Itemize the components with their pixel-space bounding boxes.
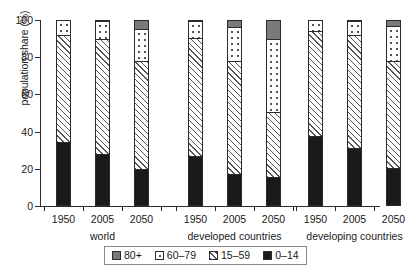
y-tick-mark xyxy=(35,57,40,58)
bar-segment-0-14[interactable] xyxy=(134,169,149,206)
y-tick-mark xyxy=(35,206,40,207)
bar-segment-0-14[interactable] xyxy=(266,177,281,206)
stacked-bar[interactable] xyxy=(134,20,149,206)
bar-segment-80+[interactable] xyxy=(95,20,110,21)
x-tick-mark xyxy=(215,206,216,211)
bar-segment-60-79[interactable] xyxy=(188,21,203,38)
bar-segment-80+[interactable] xyxy=(347,20,362,21)
group-label: developing countries xyxy=(275,231,410,242)
bar-segment-80+[interactable] xyxy=(266,20,281,39)
bar-segment-0-14[interactable] xyxy=(188,156,203,206)
legend-label: 80+ xyxy=(124,250,142,261)
x-tick-label: 2005 xyxy=(335,214,375,225)
bar-segment-0-14[interactable] xyxy=(308,136,323,206)
x-tick-label: 2050 xyxy=(254,214,294,225)
bar-segment-60-79[interactable] xyxy=(95,21,110,39)
chart-legend: 80+60–7915–590–14 xyxy=(104,246,307,265)
stacked-bar[interactable] xyxy=(347,20,362,206)
bar-segment-15-59[interactable] xyxy=(347,35,362,148)
legend-item[interactable]: 80+ xyxy=(112,250,142,261)
legend-item[interactable]: 15–59 xyxy=(209,250,250,261)
legend-swatch-icon xyxy=(209,251,218,260)
bar-segment-15-59[interactable] xyxy=(188,38,203,156)
bar-segment-80+[interactable] xyxy=(134,20,149,29)
bar-segment-80+[interactable] xyxy=(227,20,242,27)
bar-segment-15-59[interactable] xyxy=(95,39,110,154)
x-tick-mark xyxy=(296,206,297,211)
bar-segment-0-14[interactable] xyxy=(56,142,71,206)
y-tick-label: 20 xyxy=(0,164,33,175)
bar-segment-60-79[interactable] xyxy=(227,27,242,61)
x-tick-mark xyxy=(254,206,255,211)
bar-segment-0-14[interactable] xyxy=(347,148,362,206)
stacked-bar[interactable] xyxy=(188,20,203,206)
bar-segment-0-14[interactable] xyxy=(386,168,401,206)
y-tick-label: 0 xyxy=(0,201,33,212)
bar-segment-80+[interactable] xyxy=(188,20,203,21)
stacked-bar[interactable] xyxy=(308,20,323,206)
bar-segment-0-14[interactable] xyxy=(95,154,110,206)
x-tick-label: 1950 xyxy=(44,214,84,225)
bar-segment-60-79[interactable] xyxy=(56,20,71,35)
bar-segment-15-59[interactable] xyxy=(134,61,149,169)
legend-item[interactable]: 60–79 xyxy=(155,250,196,261)
stacked-bar[interactable] xyxy=(56,20,71,206)
x-tick-label: 2050 xyxy=(374,214,410,225)
y-axis-line xyxy=(40,20,41,207)
x-tick-mark xyxy=(374,206,375,211)
bar-segment-60-79[interactable] xyxy=(134,29,149,61)
y-tick-mark xyxy=(35,132,40,133)
x-tick-mark xyxy=(176,206,177,211)
legend-label: 60–79 xyxy=(167,250,196,261)
y-tick-label: 100 xyxy=(0,15,33,26)
bar-segment-60-79[interactable] xyxy=(386,26,401,61)
x-tick-mark xyxy=(335,206,336,211)
x-axis-line xyxy=(40,206,380,207)
plot-area: 020406080100 xyxy=(40,20,380,207)
bar-segment-15-59[interactable] xyxy=(308,31,323,136)
x-tick-mark xyxy=(44,206,45,211)
bar-segment-15-59[interactable] xyxy=(56,35,71,142)
x-tick-label: 2005 xyxy=(83,214,123,225)
y-tick-label: 60 xyxy=(0,89,33,100)
bar-segment-15-59[interactable] xyxy=(266,112,281,177)
stacked-bar[interactable] xyxy=(95,20,110,206)
bar-segment-0-14[interactable] xyxy=(227,174,242,206)
legend-label: 15–59 xyxy=(221,250,250,261)
x-tick-mark xyxy=(161,206,162,211)
y-tick-mark xyxy=(35,94,40,95)
legend-label: 0–14 xyxy=(275,250,298,261)
bar-segment-15-59[interactable] xyxy=(386,61,401,168)
bar-segment-15-59[interactable] xyxy=(227,61,242,174)
legend-swatch-icon xyxy=(263,251,272,260)
y-tick-mark xyxy=(35,169,40,170)
y-tick-label: 80 xyxy=(0,52,33,63)
bar-segment-80+[interactable] xyxy=(386,20,401,26)
x-tick-label: 2050 xyxy=(122,214,162,225)
stacked-bar[interactable] xyxy=(266,20,281,206)
bar-segment-60-79[interactable] xyxy=(308,20,323,31)
legend-swatch-icon xyxy=(112,251,121,260)
y-tick-label: 40 xyxy=(0,127,33,138)
x-tick-mark xyxy=(83,206,84,211)
y-tick-mark xyxy=(35,20,40,21)
x-tick-label: 1950 xyxy=(296,214,336,225)
stacked-bar[interactable] xyxy=(227,20,242,206)
legend-item[interactable]: 0–14 xyxy=(263,250,298,261)
bar-segment-60-79[interactable] xyxy=(266,39,281,112)
x-tick-label: 1950 xyxy=(176,214,216,225)
x-tick-label: 2005 xyxy=(215,214,255,225)
stacked-bar[interactable] xyxy=(386,20,401,206)
x-tick-mark xyxy=(122,206,123,211)
x-tick-mark xyxy=(293,206,294,211)
legend-swatch-icon xyxy=(155,251,164,260)
bar-segment-60-79[interactable] xyxy=(347,21,362,35)
